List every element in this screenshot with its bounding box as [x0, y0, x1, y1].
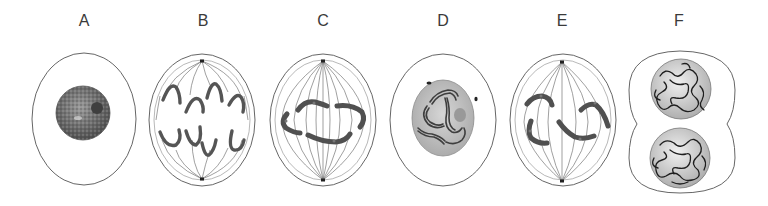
cell-f-telophase: [629, 51, 735, 193]
cell-c-metaphase: [270, 54, 376, 186]
cell-b-anaphase: [149, 54, 255, 186]
cell-d-prophase: [390, 54, 496, 186]
cell-e-prometaphase: [510, 54, 616, 186]
mitosis-diagram: [0, 0, 768, 206]
cell-a-interphase: [32, 53, 136, 185]
mitosis-figure: A B C D E F: [0, 0, 768, 206]
